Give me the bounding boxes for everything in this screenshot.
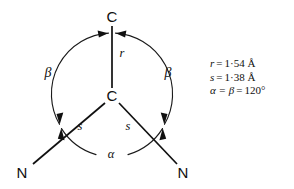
arrow-head-beta-right-bottom <box>161 112 168 124</box>
bond-label-s-right: s <box>126 119 131 133</box>
legend-equals-angles: = <box>234 84 244 96</box>
parameter-legend: r=1·54 Å s=1·38 Å α = β=120° <box>210 57 294 98</box>
atom-label-n-right: N <box>178 164 189 181</box>
bond-c-center-to-n-left <box>33 103 105 164</box>
legend-value-angles: 120° <box>244 84 265 96</box>
legend-symbol-angles: α = β <box>210 84 234 96</box>
atom-label-c-center: C <box>107 87 118 104</box>
legend-value-r: 1·54 Å <box>225 57 256 69</box>
arrow-head-beta-left-bottom <box>57 112 64 124</box>
arrow-head-alpha-right <box>159 128 166 140</box>
legend-row-s: s=1·38 Å <box>210 71 294 85</box>
legend-equals-s: = <box>214 71 224 83</box>
atom-label-c-top: C <box>107 8 118 25</box>
bond-label-r: r <box>120 46 125 60</box>
arrow-head-beta-right-top <box>116 31 127 38</box>
angle-label-beta-left: β <box>44 65 52 80</box>
arrow-head-beta-left-top <box>98 31 109 38</box>
atom-label-n-left: N <box>17 164 28 181</box>
angle-label-beta-right: β <box>164 65 172 80</box>
angle-arc-beta-left <box>51 31 108 125</box>
legend-row-r: r=1·54 Å <box>210 57 294 71</box>
legend-row-angles: α = β=120° <box>210 84 294 98</box>
legend-value-s: 1·38 Å <box>225 71 256 83</box>
angle-label-alpha: α <box>108 147 115 161</box>
legend-equals-r: = <box>214 57 224 69</box>
bond-label-s-left: s <box>78 119 83 133</box>
